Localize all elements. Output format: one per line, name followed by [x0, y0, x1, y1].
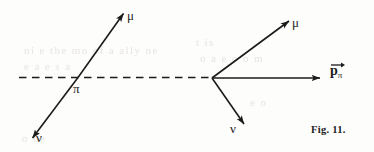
pion-momentum-label-body: p: [330, 64, 338, 78]
left-pion-vertex-label: π: [73, 82, 80, 95]
pion-momentum-label-subscript: π: [338, 71, 343, 80]
figure-page: ni e the mo of a ally ne e a e s a t is …: [0, 0, 374, 152]
left-neutrino-arrow: [33, 78, 79, 139]
pion-momentum-label: pπ: [330, 62, 342, 80]
left-muon-arrow: [78, 14, 124, 78]
right-neutrino-label: ν: [230, 122, 236, 135]
right-muon-label: μ: [292, 16, 299, 29]
right-diagram-group: [212, 21, 320, 124]
figure-caption: Fig. 11.: [311, 124, 346, 135]
left-neutrino-label: ν: [36, 131, 42, 144]
right-neutrino-arrow: [212, 78, 244, 124]
left-diagram-group: [19, 14, 209, 139]
right-muon-arrow: [212, 21, 289, 78]
left-muon-label: μ: [127, 9, 134, 22]
